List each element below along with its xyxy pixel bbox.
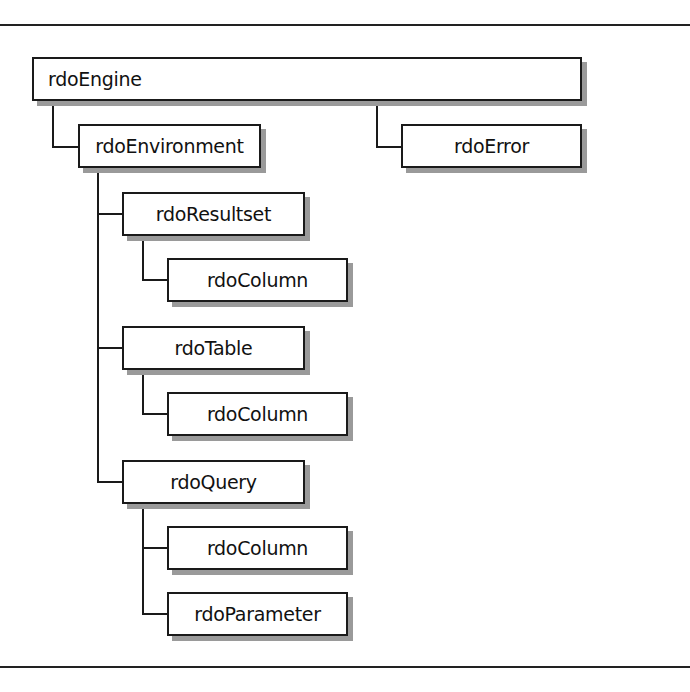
connector: [142, 503, 144, 615]
node-rdo-column: rdoColumn: [167, 526, 348, 570]
node-rdo-table: rdoTable: [122, 326, 305, 370]
bottom-rule: [0, 666, 690, 668]
connector: [142, 369, 144, 415]
node-rdo-column: rdoColumn: [167, 392, 348, 436]
node-rdo-column: rdoColumn: [167, 258, 348, 302]
node-rdo-environment: rdoEnvironment: [78, 124, 261, 168]
node-rdo-engine: rdoEngine: [32, 57, 582, 101]
connector: [52, 146, 78, 148]
node-rdo-query: rdoQuery: [122, 460, 305, 504]
connector: [376, 101, 378, 148]
node-rdo-resultset: rdoResultset: [122, 192, 305, 236]
connector: [97, 347, 122, 349]
connector: [142, 235, 144, 281]
connector: [142, 613, 167, 615]
connector: [52, 101, 54, 148]
node-rdo-error: rdoError: [401, 124, 582, 168]
connector: [142, 413, 167, 415]
node-rdo-parameter: rdoParameter: [167, 592, 348, 636]
top-rule: [0, 24, 690, 26]
connector: [97, 481, 122, 483]
connector: [376, 146, 401, 148]
connector: [142, 279, 167, 281]
connector: [97, 213, 122, 215]
connector: [142, 547, 167, 549]
